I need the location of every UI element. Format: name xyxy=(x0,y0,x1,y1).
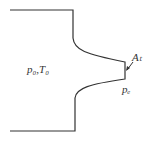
nozzle-diagram: p₀,T₀ Aₜ pₑ xyxy=(0,0,153,144)
reservoir-label: p₀,T₀ xyxy=(26,63,49,75)
nozzle-upper-wall xyxy=(10,10,125,70)
exit-pressure-label: pₑ xyxy=(121,83,131,95)
throat-area-label: Aₜ xyxy=(131,51,143,63)
nozzle-lower-wall xyxy=(10,70,125,131)
